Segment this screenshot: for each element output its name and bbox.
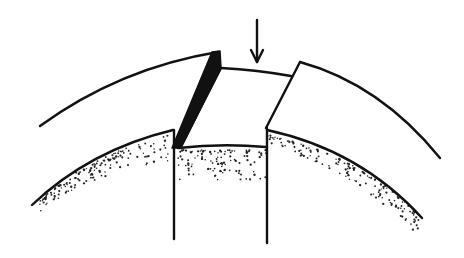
down-arrow-icon: [251, 20, 263, 62]
diagram-canvas: [0, 0, 464, 258]
stipple-right-band: [267, 135, 419, 231]
right-inner-arc: [267, 130, 422, 218]
right-outer-arc: [300, 62, 440, 158]
raised-block-top-edge: [221, 68, 291, 76]
diagram-svg: [0, 0, 464, 258]
stipple-left-band: [39, 135, 169, 212]
stipple-middle-band: [177, 149, 266, 180]
black-side-face: [172, 51, 221, 148]
middle-block-bottom-edge: [178, 145, 266, 148]
left-inner-arc: [32, 130, 173, 205]
